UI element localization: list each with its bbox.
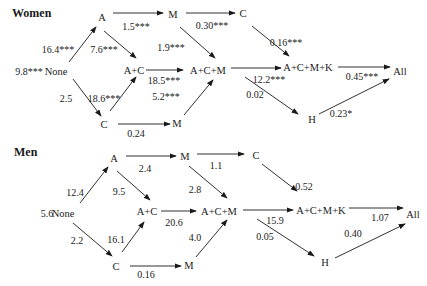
edge-label-a-ac: 9.5 (113, 186, 126, 197)
node-c-top: C (239, 8, 246, 19)
edge-label-a-m: 2.4 (139, 163, 152, 174)
none-value-label: 9.8*** (15, 66, 43, 77)
edge-label-acm-acmk: 15.9 (266, 215, 284, 226)
edge-label-m-acm: 2.8 (189, 184, 202, 195)
edge-label-a-m: 1.5*** (122, 21, 150, 32)
node-none: None (52, 208, 75, 219)
edge-label-ac-acm: 20.6 (165, 217, 183, 228)
edge-label-c-ac: 18.6*** (88, 93, 121, 104)
node-a-c: A+C (124, 65, 145, 76)
edge-label-mlow-acm: 4.0 (189, 232, 202, 243)
edge-label-ac-acm: 18.5*** (148, 75, 181, 86)
node-a-c: A+C (137, 206, 158, 217)
node-m-top: M (180, 151, 189, 162)
node-h: H (321, 257, 329, 268)
edge-label-c-m: 0.24 (127, 128, 145, 139)
edge-label-mlow-acm: 5.2*** (152, 91, 180, 102)
node-a-c-m-k: A+C+M+K (296, 205, 345, 216)
node-a: A (98, 12, 106, 23)
edge-label-c-acmk: 0.52 (295, 181, 313, 192)
node-a-c-m-k: A+C+M+K (283, 62, 332, 73)
edge-label-none-c: 2.5 (60, 93, 73, 104)
edge-label-acmk-all: 0.45*** (346, 71, 379, 82)
panel-title-men: Men (14, 145, 37, 160)
panel-title-women: Women (12, 6, 51, 21)
node-a-c-m: A+C+M (190, 65, 226, 76)
edge-label-none-c: 2.2 (71, 235, 84, 246)
edge-label-m-acm: 1.9*** (157, 42, 185, 53)
edge-label-m-c: 1.1 (210, 160, 223, 171)
edge-label-a-ac: 7.6*** (90, 44, 118, 55)
node-a: A (110, 153, 118, 164)
edge-label-c-acmk: 0.16*** (270, 37, 303, 48)
node-m-low: M (172, 118, 181, 129)
node-all: All (393, 66, 406, 77)
edge-label-acmk-all: 1.07 (371, 212, 389, 223)
edge-label-h-all: 0.40 (344, 228, 362, 239)
node-none: None (45, 66, 68, 77)
edge-label-m-c: 0.30*** (196, 20, 229, 31)
edge-label-none-a: 16.4*** (42, 44, 75, 55)
edge-label-acm-h: 0.05 (256, 231, 274, 242)
node-c-top: C (252, 150, 259, 161)
node-c-low: C (100, 119, 107, 130)
edge-label-c-ac: 16.1 (107, 234, 125, 245)
men-panel: Men 5.6 None A C A+C M M A+C+M C A+C+M+K… (0, 140, 427, 286)
node-m-top: M (168, 9, 177, 20)
edge-label-acm-h: 0.02 (246, 89, 264, 100)
edge-label-c-m: 0.16 (137, 269, 155, 280)
edge-label-h-all: 0.23* (330, 108, 353, 119)
node-c-low: C (112, 261, 119, 272)
women-panel: Women 9.8*** None A C A+C M M A+C+M C A+… (0, 0, 427, 143)
node-all: All (406, 209, 419, 220)
edge-label-none-a: 12.4 (66, 187, 84, 198)
node-h: H (308, 114, 316, 125)
edge-label-acm-acmk: 12.2*** (253, 74, 286, 85)
node-a-c-m: A+C+M (201, 206, 237, 217)
node-m-low: M (184, 260, 193, 271)
